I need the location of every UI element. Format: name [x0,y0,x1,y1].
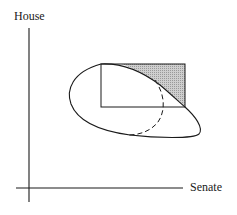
y-axis-label: House [14,10,45,22]
shaded-region [122,64,185,107]
x-axis-label: Senate [190,181,222,193]
